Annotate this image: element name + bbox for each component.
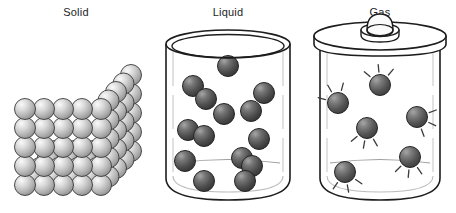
panel-liquid: Liquid — [152, 0, 304, 213]
liquid-particle — [194, 171, 215, 192]
gas-particle — [328, 93, 349, 114]
solid-lattice-stage — [0, 0, 152, 213]
solid-particle — [34, 175, 55, 196]
gas-motion-line — [378, 65, 379, 72]
solid-particle — [91, 99, 112, 120]
solid-particle — [72, 175, 93, 196]
gas-particle — [357, 118, 378, 139]
gas-particle — [400, 147, 421, 168]
solid-particle — [34, 137, 55, 158]
solid-particle — [15, 137, 36, 158]
solid-particle — [15, 118, 36, 139]
liquid-particle — [175, 151, 196, 172]
solid-lattice-svg — [0, 0, 152, 213]
panel-gas: Gas — [304, 0, 456, 213]
solid-particle — [72, 118, 93, 139]
liquid-beaker-svg — [152, 0, 304, 213]
solid-particle — [53, 118, 74, 139]
solid-particle — [34, 156, 55, 177]
solid-particle — [53, 137, 74, 158]
solid-particle — [72, 99, 93, 120]
solid-particle — [91, 175, 112, 196]
liquid-particle — [196, 89, 217, 110]
liquid-particle — [235, 171, 256, 192]
liquid-particle — [241, 101, 262, 122]
solid-particle — [15, 99, 36, 120]
solid-particle — [34, 118, 55, 139]
liquid-particle — [249, 129, 270, 150]
solid-particle — [53, 175, 74, 196]
solid-particle — [53, 99, 74, 120]
states-of-matter-figure: Solid Liquid — [0, 0, 456, 213]
gas-particle — [407, 107, 428, 128]
solid-particle — [34, 99, 55, 120]
solid-particle — [15, 156, 36, 177]
panel-solid: Solid — [0, 0, 152, 213]
liquid-particle — [194, 126, 215, 147]
gas-jar-svg — [304, 0, 456, 213]
gas-jar-stage — [304, 0, 456, 213]
solid-particle — [91, 118, 112, 139]
solid-particle — [91, 156, 112, 177]
solid-particle — [91, 137, 112, 158]
gas-motion-line — [408, 170, 409, 177]
gas-particle — [335, 162, 356, 183]
liquid-beaker-stage — [152, 0, 304, 213]
liquid-particle — [254, 83, 275, 104]
liquid-particle — [214, 104, 235, 125]
solid-particle — [15, 175, 36, 196]
gas-particle — [370, 75, 391, 96]
solid-particle — [72, 137, 93, 158]
solid-sphere-group — [15, 65, 142, 196]
solid-particle — [53, 156, 74, 177]
solid-particle — [72, 156, 93, 177]
